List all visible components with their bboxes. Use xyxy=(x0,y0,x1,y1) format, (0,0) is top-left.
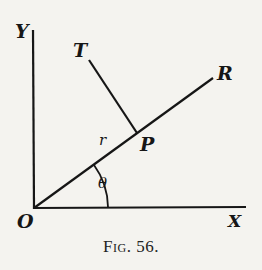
caption-prefix: Fig. xyxy=(103,237,131,256)
diagram-lines xyxy=(0,0,262,270)
y-axis-label: Y xyxy=(15,22,29,41)
t-label: T xyxy=(73,41,87,60)
radius-label: r xyxy=(99,133,106,148)
point-p-label: P xyxy=(140,135,154,154)
theta-label: θ xyxy=(98,176,107,191)
x-axis-label: X xyxy=(228,213,241,230)
radial-line-OR xyxy=(34,78,213,208)
perpendicular-line-PT xyxy=(89,60,137,133)
caption-number: 56. xyxy=(136,237,159,256)
x-axis-line xyxy=(33,207,246,208)
origin-label: O xyxy=(17,212,34,231)
figure-caption: Fig. 56. xyxy=(0,237,262,257)
y-axis-line xyxy=(33,30,34,209)
polar-coordinates-figure: Y T R r P θ O X Fig. 56. xyxy=(0,0,262,270)
r-endpoint-label: R xyxy=(217,64,233,83)
